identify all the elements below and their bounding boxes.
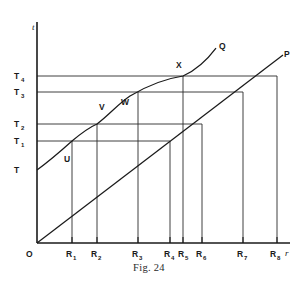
ytick-label-t3: T — [14, 87, 20, 97]
xtick-sub-r1: 1 — [73, 255, 77, 261]
y-axis-label: t — [32, 22, 35, 32]
xtick-sub-r2: 2 — [98, 255, 102, 261]
xtick-sub-r5: 5 — [185, 255, 189, 261]
horizontal-gridlines — [37, 76, 277, 141]
xtick-label-r5: R — [178, 249, 184, 259]
ytick-sub-t1: 1 — [21, 142, 25, 148]
figure-svg: T 4 T 3 T 2 T 1 T R 1 R 2 R 3 R 4 R 5 R … — [0, 0, 298, 287]
ytick-label-t2: T — [14, 119, 20, 129]
line-p — [37, 55, 283, 243]
curve-label-q: Q — [219, 41, 226, 51]
ytick-sub-t3: 3 — [21, 93, 25, 99]
x-axis-label: r — [285, 248, 289, 258]
ytick-label-t: T — [14, 165, 20, 175]
xtick-label-r7: R — [237, 249, 243, 259]
ytick-sub-t2: 2 — [21, 125, 25, 131]
ytick-label-t1: T — [14, 136, 20, 146]
xtick-label-r6: R — [196, 249, 202, 259]
ytick-sub-t4: 4 — [21, 77, 25, 83]
curve-label-p: P — [284, 49, 290, 59]
curve-q — [37, 48, 216, 170]
point-label-u: U — [64, 154, 70, 164]
point-label-v: V — [99, 102, 105, 112]
x-axis-tick-labels: R 1 R 2 R 3 R 4 R 5 R 6 R 7 R 8 — [66, 249, 281, 261]
curve-point-labels: U V W X Q P — [64, 41, 290, 164]
xtick-label-r2: R — [91, 249, 97, 259]
xtick-label-r3: R — [132, 249, 138, 259]
point-label-x: X — [176, 60, 182, 70]
xtick-label-r8: R — [270, 249, 276, 259]
origin-label: O — [26, 249, 33, 259]
xtick-sub-r4: 4 — [171, 255, 175, 261]
ytick-label-t4: T — [14, 71, 20, 81]
xtick-sub-r8: 8 — [277, 255, 281, 261]
point-label-w: W — [121, 97, 130, 107]
xtick-sub-r7: 7 — [244, 255, 248, 261]
xtick-label-r1: R — [66, 249, 72, 259]
figure-24-container: T 4 T 3 T 2 T 1 T R 1 R 2 R 3 R 4 R 5 R … — [0, 0, 298, 287]
y-axis-tick-labels: T 4 T 3 T 2 T 1 T — [14, 71, 25, 175]
xtick-label-r4: R — [164, 249, 170, 259]
xtick-sub-r3: 3 — [139, 255, 143, 261]
x-axis-ticks — [72, 237, 277, 243]
xtick-sub-r6: 6 — [203, 255, 207, 261]
figure-caption: Fig. 24 — [0, 262, 298, 273]
